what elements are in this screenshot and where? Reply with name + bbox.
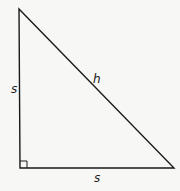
- hypotenuse-label: h: [93, 73, 101, 85]
- bottom-leg-label: s: [94, 172, 100, 184]
- right-triangle: [19, 9, 174, 168]
- triangle-figure: [0, 0, 180, 191]
- right-angle-marker: [20, 161, 27, 168]
- left-leg-label: s: [11, 83, 17, 95]
